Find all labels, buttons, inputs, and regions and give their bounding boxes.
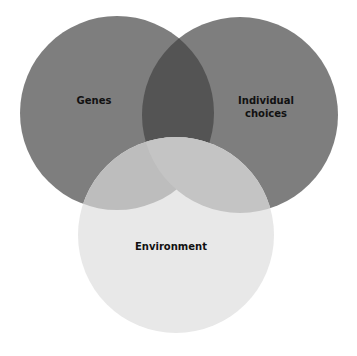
label-individual-choices-line1: Individual	[238, 94, 294, 107]
venn-diagram	[0, 0, 357, 356]
label-individual-choices-line2: choices	[238, 107, 294, 120]
label-genes: Genes	[77, 94, 112, 107]
label-individual-choices: Individual choices	[238, 94, 294, 120]
label-environment: Environment	[135, 240, 207, 253]
